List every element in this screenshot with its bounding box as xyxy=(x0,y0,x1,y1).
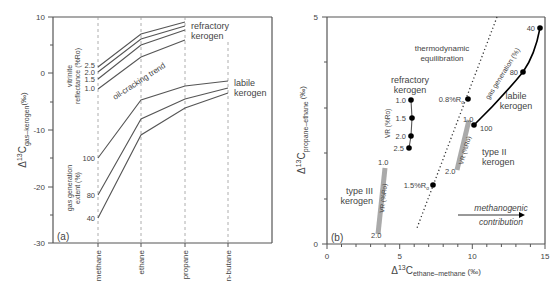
panel-b: 5 0 0 5 10 15 Δ13Cethane–methane(‰) xyxy=(295,13,550,277)
panel-a-y-ticks xyxy=(48,17,53,243)
vr-1.0: 1.0 xyxy=(85,84,95,93)
type-iii-1.0: 1.0 xyxy=(378,158,388,167)
a-refractory-kerogen-label: kerogen xyxy=(191,31,224,41)
gg-title-1: gas generation xyxy=(66,165,74,211)
a-xcat-ethane: ethane xyxy=(137,249,146,274)
type-iii-vr-label: VR (%Ro) xyxy=(378,183,389,213)
labile-point-100 xyxy=(471,122,477,128)
b-xtick-10: 10 xyxy=(468,252,477,261)
type-ii-2.0: 2.0 xyxy=(445,167,455,176)
refractory-point-2.0 xyxy=(408,133,414,139)
a-xcat-methane: methane xyxy=(94,249,103,281)
gg-80: 80 xyxy=(87,191,95,200)
gg-40: 40 xyxy=(87,214,95,223)
gg-100: 100 xyxy=(82,154,95,163)
labile-label-100: 100 xyxy=(480,124,493,133)
type-iii-label-1: type III xyxy=(346,186,373,196)
b-ytick-0: 0 xyxy=(314,240,319,249)
svg-text:Δ13Cgas–kerogen(‰): Δ13Cgas–kerogen(‰) xyxy=(16,92,31,168)
a-labile-kerogen-label: kerogen xyxy=(234,88,267,98)
a-ytick-0: 0 xyxy=(41,69,46,78)
labile-point-80 xyxy=(520,69,526,75)
gg-title-2: extent (%) xyxy=(74,172,82,204)
panel-a-label: (a) xyxy=(57,231,69,242)
b-refractory-label: refractory xyxy=(391,75,430,85)
labile-label-80: 80 xyxy=(510,68,518,77)
a-xcat-n-butane: n-butane xyxy=(224,249,233,281)
a-xcat-propane: propane xyxy=(181,249,190,279)
type-ii-label-1: type II xyxy=(482,147,507,157)
labile-lines xyxy=(98,81,228,218)
svg-text:Δ13Cpropane–ethane(‰): Δ13Cpropane–ethane(‰) xyxy=(295,86,310,174)
vr-title-2: reflectance (%Ro) xyxy=(74,48,82,104)
panel-b-x-label: Δ13Cethane–methane(‰) xyxy=(391,264,481,277)
thermo-label-2: equilibration xyxy=(420,54,463,63)
b-labile-label: labile xyxy=(505,91,526,101)
panel-b-y-ticks xyxy=(322,17,327,244)
refractory-curve xyxy=(409,100,412,148)
b-xtick-5: 5 xyxy=(397,252,402,261)
a-labile-label: labile xyxy=(234,78,255,88)
thermo-point-0.8 xyxy=(465,96,471,102)
a-refractory-label: refractory xyxy=(191,21,230,31)
a-ytick-neg20: -20 xyxy=(33,183,45,192)
type-iii-label-2: kerogen xyxy=(340,196,373,206)
vr-title-1: vitrinite xyxy=(66,65,73,87)
labile-label-40: 40 xyxy=(527,24,535,33)
a-ytick-neg10: -10 xyxy=(33,126,45,135)
type-ii-1.0: 1.0 xyxy=(463,115,473,124)
b-labile-kerogen-label: kerogen xyxy=(500,101,533,111)
oil-cracking-label: oil-cracking trend xyxy=(111,61,167,102)
type-ii-label-2: kerogen xyxy=(482,157,515,167)
refractory-point-1.0 xyxy=(408,97,414,103)
b-xtick-0: 0 xyxy=(325,252,330,261)
refractory-label-1.5: 1.5 xyxy=(396,114,406,123)
refractory-point-2.5 xyxy=(406,145,412,151)
type-iii-2.0: 2.0 xyxy=(371,231,381,240)
b-ytick-5: 5 xyxy=(314,13,319,22)
thermo-label-0.8: 0.8%Ro xyxy=(439,95,465,105)
panel-b-label: (b) xyxy=(331,232,343,243)
refractory-label-2.0: 2.0 xyxy=(396,132,406,141)
figure: 10 0 -10 -20 -30 Δ13Cgas–kerogen(‰) meth… xyxy=(0,0,557,291)
refractory-vr-axis-label: VR (%Ro) xyxy=(384,109,392,138)
panel-b-x-ticks xyxy=(327,244,545,249)
refractory-label-2.5: 2.5 xyxy=(394,144,404,153)
refractory-point-1.5 xyxy=(409,115,415,121)
vr-1.5: 1.5 xyxy=(85,75,95,84)
methanogenic-label-2: contribution xyxy=(479,217,523,227)
thermo-label-1: thermodynamic xyxy=(415,44,470,53)
thermo-point-1.5 xyxy=(430,182,436,188)
panel-a-y-label: Δ13Cgas–kerogen(‰) xyxy=(16,92,31,168)
panel-a: 10 0 -10 -20 -30 Δ13Cgas–kerogen(‰) meth… xyxy=(16,13,272,282)
thermo-label-1.5: 1.5%Ro xyxy=(404,181,430,191)
b-xtick-15: 15 xyxy=(541,252,550,261)
refractory-label-1.0: 1.0 xyxy=(396,96,406,105)
a-ytick-10: 10 xyxy=(36,13,45,22)
labile-point-40 xyxy=(537,25,543,31)
a-ytick-neg30: -30 xyxy=(33,239,45,248)
panel-b-y-label: Δ13Cpropane–ethane(‰) xyxy=(295,86,310,174)
methanogenic-label-1: methanogenic xyxy=(474,203,528,213)
b-refractory-kerogen-label: kerogen xyxy=(394,85,427,95)
